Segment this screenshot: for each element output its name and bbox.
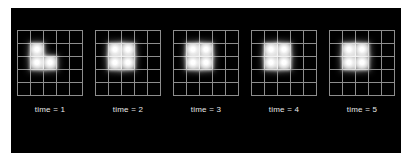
life-cell-alive bbox=[187, 44, 200, 57]
life-cell-dead bbox=[18, 83, 31, 96]
life-cell-dead bbox=[304, 31, 317, 44]
life-cell-dead bbox=[213, 57, 226, 70]
life-panel: time = 3 bbox=[173, 30, 239, 115]
life-cell-dead bbox=[213, 83, 226, 96]
life-cell-alive bbox=[278, 57, 291, 70]
panel-time-label: time = 2 bbox=[113, 105, 143, 115]
life-panel: time = 1 bbox=[17, 30, 83, 115]
life-cell-dead bbox=[57, 70, 70, 83]
life-cell-dead bbox=[96, 31, 109, 44]
life-cell-alive bbox=[44, 57, 57, 70]
life-cell-dead bbox=[18, 57, 31, 70]
life-cell-dead bbox=[44, 31, 57, 44]
life-cell-dead bbox=[148, 44, 161, 57]
life-cell-dead bbox=[187, 83, 200, 96]
life-cell-dead bbox=[213, 70, 226, 83]
life-cell-dead bbox=[57, 44, 70, 57]
life-cell-dead bbox=[70, 31, 83, 44]
life-cell-alive bbox=[122, 57, 135, 70]
life-cell-dead bbox=[44, 44, 57, 57]
life-cell-alive bbox=[343, 44, 356, 57]
life-cell-dead bbox=[252, 83, 265, 96]
life-cell-dead bbox=[356, 83, 369, 96]
life-cell-dead bbox=[96, 83, 109, 96]
life-cell-dead bbox=[70, 44, 83, 57]
plot-canvas: time = 1time = 2time = 3time = 4time = 5 bbox=[11, 8, 401, 153]
life-panel: time = 4 bbox=[251, 30, 317, 115]
life-cell-dead bbox=[291, 83, 304, 96]
life-cell-dead bbox=[330, 83, 343, 96]
life-cell-alive bbox=[265, 57, 278, 70]
panel-sequence: time = 1time = 2time = 3time = 4time = 5 bbox=[11, 8, 401, 153]
life-cell-alive bbox=[109, 57, 122, 70]
life-cell-dead bbox=[278, 31, 291, 44]
life-cell-dead bbox=[330, 31, 343, 44]
life-cell-dead bbox=[122, 70, 135, 83]
life-cell-dead bbox=[369, 70, 382, 83]
life-cell-dead bbox=[96, 44, 109, 57]
life-cell-dead bbox=[135, 83, 148, 96]
life-cell-dead bbox=[343, 83, 356, 96]
panel-time-label: time = 5 bbox=[347, 105, 377, 115]
life-cell-dead bbox=[31, 70, 44, 83]
life-cell-dead bbox=[96, 70, 109, 83]
life-cell-alive bbox=[356, 57, 369, 70]
life-cell-dead bbox=[369, 83, 382, 96]
life-cell-dead bbox=[226, 83, 239, 96]
life-cell-dead bbox=[252, 31, 265, 44]
life-cell-dead bbox=[122, 31, 135, 44]
life-cell-alive bbox=[265, 44, 278, 57]
life-cell-dead bbox=[187, 70, 200, 83]
life-cell-dead bbox=[135, 70, 148, 83]
life-cell-dead bbox=[382, 83, 395, 96]
life-cell-alive bbox=[187, 57, 200, 70]
life-cell-dead bbox=[265, 83, 278, 96]
life-cell-dead bbox=[343, 31, 356, 44]
panel-time-label: time = 3 bbox=[191, 105, 221, 115]
life-cell-dead bbox=[382, 31, 395, 44]
life-cell-alive bbox=[109, 44, 122, 57]
life-grid bbox=[173, 30, 239, 96]
life-cell-dead bbox=[31, 83, 44, 96]
life-cell-dead bbox=[200, 31, 213, 44]
life-cell-dead bbox=[291, 70, 304, 83]
life-cell-dead bbox=[278, 83, 291, 96]
life-cell-dead bbox=[70, 70, 83, 83]
life-cell-dead bbox=[44, 83, 57, 96]
life-cell-dead bbox=[18, 70, 31, 83]
life-cell-dead bbox=[382, 57, 395, 70]
life-cell-dead bbox=[70, 57, 83, 70]
life-cell-dead bbox=[148, 57, 161, 70]
life-cell-dead bbox=[174, 83, 187, 96]
life-cell-dead bbox=[213, 31, 226, 44]
life-cell-dead bbox=[148, 31, 161, 44]
life-cell-dead bbox=[304, 83, 317, 96]
life-cell-dead bbox=[343, 70, 356, 83]
life-cell-dead bbox=[44, 70, 57, 83]
life-cell-dead bbox=[174, 44, 187, 57]
life-cell-alive bbox=[278, 44, 291, 57]
life-panel: time = 5 bbox=[329, 30, 395, 115]
life-cell-alive bbox=[200, 57, 213, 70]
life-cell-dead bbox=[200, 70, 213, 83]
life-cell-dead bbox=[291, 44, 304, 57]
life-cell-dead bbox=[109, 31, 122, 44]
life-grid bbox=[251, 30, 317, 96]
life-grid bbox=[329, 30, 395, 96]
panel-time-label: time = 1 bbox=[35, 105, 65, 115]
life-cell-dead bbox=[135, 57, 148, 70]
life-cell-dead bbox=[57, 57, 70, 70]
life-cell-dead bbox=[135, 44, 148, 57]
life-cell-dead bbox=[291, 31, 304, 44]
life-cell-dead bbox=[356, 31, 369, 44]
life-cell-dead bbox=[226, 70, 239, 83]
life-cell-dead bbox=[18, 31, 31, 44]
life-cell-dead bbox=[369, 44, 382, 57]
life-cell-dead bbox=[252, 44, 265, 57]
life-cell-dead bbox=[265, 31, 278, 44]
life-grid bbox=[17, 30, 83, 96]
life-cell-dead bbox=[187, 31, 200, 44]
life-cell-dead bbox=[148, 83, 161, 96]
life-cell-dead bbox=[70, 83, 83, 96]
life-cell-dead bbox=[135, 31, 148, 44]
